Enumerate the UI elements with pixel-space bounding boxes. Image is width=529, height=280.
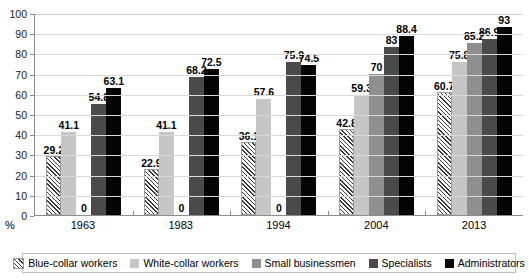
legend-item[interactable]: White-collar workers — [130, 258, 238, 269]
x-axis: 19631983199420042013 — [34, 218, 523, 234]
bar-value-label: 93 — [498, 15, 510, 26]
bar[interactable]: 74.5 — [301, 65, 316, 215]
x-axis-tick-label: 1963 — [34, 218, 132, 234]
y-axis-tick-label: 30 — [0, 150, 27, 160]
x-axis-tick-label: 1994 — [230, 218, 328, 234]
bar[interactable]: 72.5 — [204, 69, 219, 215]
x-axis-tick-label: 1983 — [132, 218, 230, 234]
gridline — [35, 115, 523, 116]
chart-legend: Blue-collar workersWhite-collar workersS… — [22, 253, 516, 273]
bar-value-label: 0 — [81, 203, 87, 214]
chart-root: 1009080706050403020100 29.241.1054.863.1… — [0, 0, 529, 280]
gridline — [35, 54, 523, 55]
bar[interactable]: 54.8 — [91, 104, 106, 215]
bar-value-label: 83 — [386, 35, 398, 46]
legend-label: Administrators — [458, 258, 525, 269]
bar[interactable]: 75.8 — [452, 62, 467, 215]
y-axis-tick-label: 80 — [0, 49, 27, 59]
legend-item[interactable]: Small businessmen — [252, 258, 356, 269]
plot-area: 29.241.1054.863.122.941.1068.272.536.157… — [34, 14, 523, 216]
bar[interactable]: 88.4 — [399, 36, 414, 215]
legend-swatch-icon — [369, 259, 378, 268]
bar[interactable]: 29.2 — [46, 156, 61, 215]
gridline — [35, 95, 523, 96]
bar[interactable]: 85.2 — [467, 43, 482, 215]
legend-swatch-icon — [445, 259, 454, 268]
bar-value-label: 0 — [178, 203, 184, 214]
bar[interactable]: 68.2 — [189, 77, 204, 215]
legend-label: White-collar workers — [143, 258, 238, 269]
gridline — [35, 155, 523, 156]
bar[interactable]: 41.1 — [61, 132, 76, 215]
bar-value-label: 72.5 — [201, 57, 221, 68]
y-axis-tick-label: 10 — [0, 191, 27, 201]
legend-swatch-icon — [13, 258, 24, 269]
gridline — [35, 176, 523, 177]
legend-item[interactable]: Specialists — [369, 258, 432, 269]
legend-label: Blue-collar workers — [28, 258, 117, 269]
bar[interactable]: 41.1 — [159, 132, 174, 215]
y-axis-tick-label: 100 — [0, 9, 27, 19]
bar-value-label: 63.1 — [104, 76, 124, 87]
plot-wrapper: 1009080706050403020100 29.241.1054.863.1… — [0, 0, 529, 232]
x-axis-tick-label: 2004 — [327, 218, 425, 234]
gridline — [35, 135, 523, 136]
bar[interactable]: 83 — [384, 47, 399, 215]
y-axis-tick-label: 60 — [0, 90, 27, 100]
bar[interactable]: 42.8 — [339, 129, 354, 215]
y-axis: 1009080706050403020100 — [0, 14, 30, 216]
y-axis-tick-label: 70 — [0, 70, 27, 80]
bar-value-label: 70 — [371, 62, 383, 73]
gridline — [35, 196, 523, 197]
y-axis-tick-label: 50 — [0, 110, 27, 120]
legend-swatch-icon — [130, 259, 139, 268]
y-axis-tick-label: 20 — [0, 171, 27, 181]
gridline — [35, 34, 523, 35]
bar[interactable]: 36.1 — [241, 142, 256, 215]
y-axis-tick-mark — [30, 216, 34, 217]
gridline — [35, 75, 523, 76]
legend-item[interactable]: Administrators — [445, 258, 525, 269]
legend-swatch-icon — [252, 259, 261, 268]
legend-item[interactable]: Blue-collar workers — [13, 258, 117, 269]
gridline — [35, 14, 523, 15]
percent-axis-marker: % — [5, 218, 15, 232]
bar[interactable]: 86.9 — [482, 39, 497, 215]
y-axis-tick-label: 40 — [0, 130, 27, 140]
bar[interactable]: 75.9 — [286, 62, 301, 215]
x-axis-tick-label: 2013 — [425, 218, 523, 234]
legend-label: Specialists — [382, 258, 432, 269]
y-axis-tick-label: 90 — [0, 29, 27, 39]
bar-value-label: 0 — [276, 203, 282, 214]
legend-label: Small businessmen — [265, 258, 356, 269]
bar[interactable]: 57.6 — [256, 99, 271, 215]
